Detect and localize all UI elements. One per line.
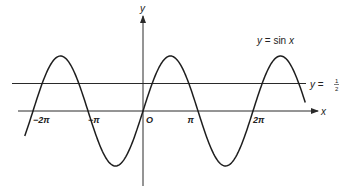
x-tick-label: −2π — [33, 115, 50, 125]
x-axis-label: x — [320, 106, 327, 117]
sine-chart: x y O −2π−ππ2π y = sin x y = 1 2 — [0, 0, 350, 195]
origin-label: O — [146, 115, 153, 125]
half-label-eq: = — [315, 79, 324, 90]
curve-label-var: x — [288, 35, 295, 46]
half-label-denominator: 2 — [335, 86, 339, 92]
half-label-numerator: 1 — [335, 78, 339, 84]
curve-label-eq: = sin — [262, 35, 289, 46]
x-tick-label: −π — [88, 115, 100, 125]
y-axis-label: y — [139, 3, 146, 14]
x-tick-label: 2π — [252, 115, 265, 125]
x-tick-label: π — [188, 115, 195, 125]
half-label-lhs: y = — [309, 79, 324, 90]
half-line-label: y = 1 2 — [309, 78, 339, 92]
curve-label: y = sin x — [256, 35, 295, 46]
